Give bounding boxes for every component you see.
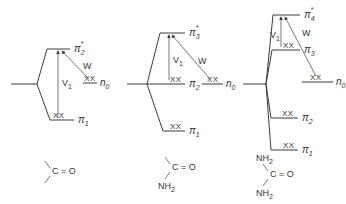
diagram-amide: π3*π2XXπ1XXXXn0V1WC = ONH2	[127, 24, 236, 193]
orbital-label-pi2: π2	[189, 78, 200, 91]
upper-bond	[263, 164, 268, 171]
carbonyl-group-text: C = O	[270, 169, 294, 179]
transition-V1: V1	[270, 17, 281, 47]
orbital-label-pi1: π1	[302, 144, 313, 157]
upper-bond	[165, 157, 170, 164]
orbital-level-pi1: π1XX	[37, 84, 89, 127]
electron-pair-mark: XX	[310, 73, 322, 82]
diagram-carbonyl: π2*π1XXXXn0V1WC = O	[11, 40, 110, 183]
correlation-line	[147, 33, 160, 84]
orbital-label-pi1: π1	[189, 125, 200, 138]
v1-label: V1	[270, 30, 280, 42]
orbital-level-pi1: π1XX	[147, 84, 200, 138]
orbital-label-n0: n0	[336, 76, 346, 89]
orbital-label-n0: n0	[100, 77, 110, 90]
mo-diagram-figure: π2*π1XXXXn0V1WC = Oπ3*π2XXπ1XXXXn0V1WC =…	[0, 0, 346, 204]
orbital-label-pi1: π1	[78, 114, 89, 127]
electron-pair-mark: XX	[170, 122, 182, 131]
lower-bond	[45, 176, 50, 183]
nonbonding-level-n0: XXn0	[202, 75, 236, 91]
w-label: W	[198, 56, 207, 66]
orbital-level-pi2: π2XX	[147, 75, 200, 91]
correlation-line	[266, 84, 271, 150]
diagram-urea: π4*π3XXπ2XXπ1XXXXn0V1WC = ONH2NH2	[243, 6, 346, 200]
nonbonding-level-n0: XXn0	[302, 73, 346, 89]
upper-bond	[45, 161, 50, 168]
orbital-label-pi4*: π4*	[304, 6, 315, 22]
chemical-structure-urea: C = ONH2NH2	[256, 153, 294, 200]
orbital-level-pi2: π2XX	[266, 84, 313, 125]
bottom-substituent: NH2	[256, 188, 273, 200]
correlation-line	[147, 84, 163, 131]
top-substituent: NH2	[256, 153, 273, 165]
v1-label: V1	[173, 55, 183, 67]
orbital-label-pi3*: π3*	[189, 24, 200, 40]
chemical-structure-amide: C = ONH2	[158, 157, 196, 193]
electron-pair-mark: XX	[53, 111, 65, 120]
w-label: W	[83, 61, 92, 71]
orbital-label-pi2*: π2*	[74, 40, 85, 56]
correlation-line	[37, 84, 50, 120]
orbital-level-pi2*: π2*	[37, 40, 85, 84]
v1-label: V1	[62, 78, 72, 90]
orbital-label-pi2: π2	[302, 112, 313, 125]
electron-pair-mark: XX	[283, 41, 295, 50]
lower-bond	[165, 172, 170, 179]
electron-pair-mark: XX	[283, 141, 295, 150]
chemical-structure-carbonyl: C = O	[45, 161, 76, 183]
correlation-line	[266, 15, 273, 84]
orbital-label-pi3: π3	[304, 44, 315, 57]
w-label: W	[302, 28, 311, 38]
carbonyl-group-text: C = O	[172, 162, 196, 172]
lower-bond	[263, 179, 268, 186]
electron-pair-mark: XX	[282, 109, 294, 118]
transition-V1: V1	[58, 51, 72, 118]
electron-pair-mark: XX	[207, 75, 219, 84]
carbonyl-group-text: C = O	[52, 166, 76, 176]
orbital-level-pi3: π3XX	[266, 41, 315, 84]
correlation-line	[37, 49, 47, 84]
orbital-label-n0: n0	[226, 78, 236, 91]
orbital-energy-diagrams: π2*π1XXXXn0V1WC = Oπ3*π2XXπ1XXXXn0V1WC =…	[0, 0, 346, 204]
transition-V1: V1	[169, 35, 183, 80]
bottom-substituent: NH2	[158, 181, 175, 193]
electron-pair-mark: XX	[170, 75, 182, 84]
